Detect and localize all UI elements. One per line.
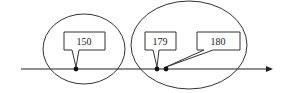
callout-label-180: 180 (211, 36, 226, 47)
callout-label-179: 179 (153, 36, 168, 47)
point-179 (155, 67, 160, 72)
callout-label-150: 150 (77, 36, 92, 47)
point-180 (164, 67, 169, 72)
callout-150: 150 (64, 32, 105, 67)
point-150 (74, 67, 79, 72)
arrow-head-icon (266, 66, 273, 72)
number-line-diagram: 150 179 180 (0, 0, 288, 93)
callout-179: 179 (145, 32, 176, 67)
callout-180: 180 (166, 32, 240, 67)
